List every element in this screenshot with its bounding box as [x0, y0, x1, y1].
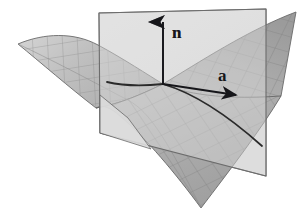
figure-container: n n	[0, 0, 304, 221]
tangent-vector-label: a	[218, 66, 227, 85]
normal-vector-label-foreground: n	[172, 23, 182, 42]
saddle-surface-diagram: n n	[0, 0, 304, 221]
